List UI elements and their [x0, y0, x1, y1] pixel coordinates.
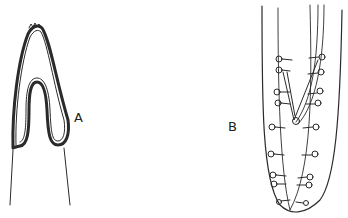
- figure-canvas: [0, 0, 348, 218]
- panel-a-drawing: [10, 23, 70, 205]
- panel-b-drawing: [262, 5, 342, 212]
- panel-a-label: A: [74, 110, 83, 125]
- panel-b-label: B: [228, 119, 237, 134]
